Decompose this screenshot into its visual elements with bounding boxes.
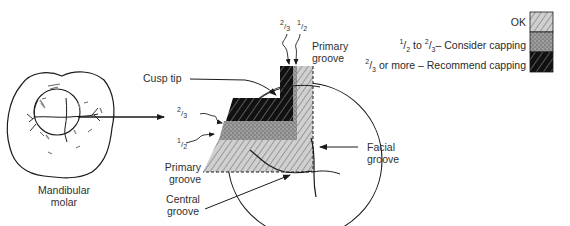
legend-swatch-consider <box>530 32 553 52</box>
molar-label-line2: molar <box>28 196 100 208</box>
legend-item-consider: 1/2 to 2/3– Consider capping <box>399 36 526 56</box>
legend-swatch-recommend <box>530 52 553 72</box>
primary-groove-left-label: Primary groove <box>155 161 201 185</box>
fraction-left-one-half: 1/2 <box>177 136 187 151</box>
primary-groove-top-line1: Primary <box>312 40 348 52</box>
legend-item-ok: OK <box>511 16 526 28</box>
fraction-top-two-thirds: 2/3 <box>280 18 290 33</box>
primary-groove-left-line2: groove <box>155 173 201 185</box>
primary-groove-top-line2: groove <box>312 52 348 64</box>
legend-swatch-ok <box>530 12 553 32</box>
recommend-capping-region <box>226 66 293 121</box>
cusp-tip-label: Cusp tip <box>143 72 182 84</box>
legend-swatches <box>530 12 553 72</box>
central-groove-label: Central groove <box>160 193 206 217</box>
fraction-top-one-half: 1/2 <box>297 18 307 33</box>
legend-item-recommend: 2/3 or more – Recommend capping <box>365 56 526 76</box>
legend-label-recommend: or more – Recommend capping <box>376 59 526 71</box>
facial-groove-line2: groove <box>367 153 399 165</box>
primary-groove-top-label: Primary groove <box>312 40 348 64</box>
fraction-left-two-thirds: 2/3 <box>177 105 187 120</box>
molar-label: Mandibular molar <box>28 184 100 208</box>
legend-label-consider: – Consider capping <box>436 39 526 51</box>
facial-groove-label: Facial groove <box>367 141 399 165</box>
molar-label-line1: Mandibular <box>28 184 100 196</box>
central-groove-line2: groove <box>160 205 206 217</box>
facial-groove-line1: Facial <box>367 141 399 153</box>
central-groove-line1: Central <box>160 193 206 205</box>
mandibular-molar-icon <box>7 72 114 178</box>
primary-groove-left-line1: Primary <box>155 161 201 173</box>
legend-label-ok: OK <box>511 16 526 28</box>
